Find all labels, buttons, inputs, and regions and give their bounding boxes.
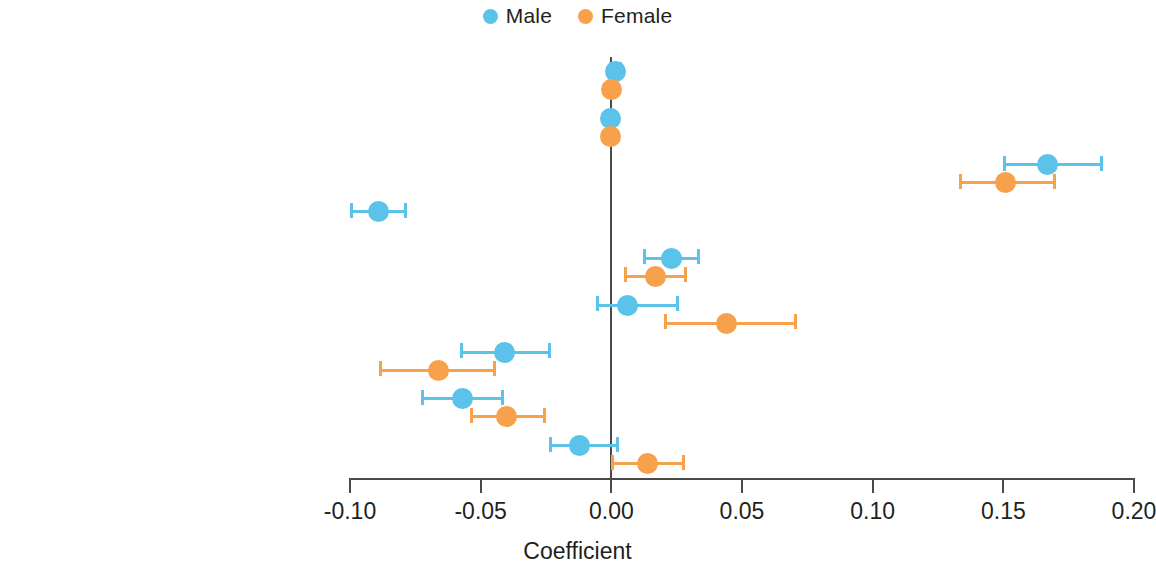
legend-marker-icon [578, 9, 593, 24]
x-axis-tick [480, 478, 482, 493]
ci-cap-right [697, 249, 700, 264]
legend-label: Female [601, 4, 672, 28]
x-axis-tick-label: -0.10 [324, 498, 376, 525]
ci-cap-right [1100, 156, 1103, 171]
chart-row: Married [350, 384, 1134, 431]
chart-row: ADL impairment [350, 151, 1134, 198]
ci-cap-right [616, 437, 619, 452]
x-axis-tick-label: 0.10 [850, 498, 895, 525]
ci-cap-left [549, 437, 552, 452]
ci-cap-right [501, 390, 504, 405]
ci-cap-right [794, 314, 797, 329]
ci-cap-right [543, 408, 546, 423]
ci-cap-left [624, 267, 627, 282]
point-marker [637, 453, 658, 474]
legend-item-female: Female [578, 4, 672, 28]
ci-cap-left [959, 174, 962, 189]
point-marker [428, 360, 449, 381]
chart-row: Secondary education and above [350, 338, 1134, 385]
ci-cap-right [548, 343, 551, 358]
ci-cap-right [682, 455, 685, 470]
x-axis-tick-label: 0.05 [720, 498, 765, 525]
ci-cap-right [1053, 174, 1056, 189]
ci-cap-right [493, 361, 496, 376]
point-marker [661, 248, 682, 269]
x-axis-tick [872, 478, 874, 493]
point-marker [645, 266, 666, 287]
ci-cap-right [684, 267, 687, 282]
x-axis-tick [1133, 478, 1135, 493]
ci-cap-left [470, 408, 473, 423]
chart-row: Age [350, 57, 1134, 104]
x-axis-tick [1002, 478, 1004, 493]
point-marker [494, 342, 515, 363]
ci-cap-left [664, 314, 667, 329]
point-marker [1037, 154, 1058, 175]
x-axis-tick [741, 478, 743, 493]
chart-row: Age squared [350, 104, 1134, 151]
legend-label: Male [506, 4, 552, 28]
x-axis: -0.10-0.050.000.050.100.150.20 [350, 478, 1134, 480]
x-axis-tick-label: -0.05 [454, 498, 506, 525]
ci-cap-left [611, 455, 614, 470]
chart-row: Rural [350, 431, 1134, 478]
point-marker [601, 79, 622, 100]
legend-marker-icon [483, 9, 498, 24]
point-marker [600, 126, 621, 147]
plot-area: AgeAge squaredADL impairmentSelf-assesse… [350, 57, 1134, 478]
ci-cap-left [421, 390, 424, 405]
ci-cap-right [404, 203, 407, 218]
ci-cap-left [460, 343, 463, 358]
ci-cap-left [350, 203, 353, 218]
ci-cap-right [676, 296, 679, 311]
x-axis-title: Coefficient [0, 538, 1155, 565]
chart-row: Smoking [350, 291, 1134, 338]
point-marker [569, 435, 590, 456]
point-marker [496, 406, 517, 427]
point-marker [617, 295, 638, 316]
point-marker [716, 313, 737, 334]
point-marker [368, 201, 389, 222]
point-marker [452, 388, 473, 409]
ci-cap-left [596, 296, 599, 311]
x-axis-tick-label: 0.00 [589, 498, 634, 525]
ci-cap-left [379, 361, 382, 376]
chart-row: Self-assessed health [350, 197, 1134, 244]
ci-cap-left [643, 249, 646, 264]
x-axis-tick [349, 478, 351, 493]
x-axis-tick-label: 0.20 [1112, 498, 1156, 525]
legend-item-male: Male [483, 4, 552, 28]
ci-cap-left [1003, 156, 1006, 171]
x-axis-tick-label: 0.15 [981, 498, 1026, 525]
chart-row: Multiple NCDs [350, 244, 1134, 291]
point-marker [995, 172, 1016, 193]
x-axis-tick [610, 478, 612, 493]
chart-legend: MaleFemale [0, 4, 1155, 28]
